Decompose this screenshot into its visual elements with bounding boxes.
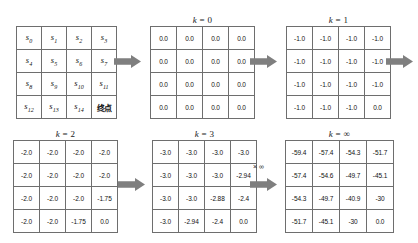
table-row: -3.0 -3.0 -3.0 -2.94 — [153, 164, 257, 187]
value-cell: -2.0 — [14, 210, 40, 233]
table-row: -2.0 -2.0 -2.0 -1.75 — [14, 187, 118, 210]
value-cell: -1.0 — [287, 50, 313, 73]
state-cell: s6 — [67, 50, 92, 73]
table-row: 0.0 0.0 0.0 0.0 — [151, 27, 255, 50]
table-row: -51.7 -45.1 -30 0.0 — [286, 210, 394, 233]
panel-k2: k = 2 -2.0 -2.0 -2.0 -2.0 -2.0 -2.0 -2.0… — [13, 128, 118, 233]
value-cell: -1.0 — [365, 73, 391, 96]
value-cell: 0.0 — [177, 27, 203, 50]
state-cell: s2 — [67, 27, 92, 50]
k3-value-table: -3.0 -3.0 -3.0 -3.0 -3.0 -3.0 -3.0 -2.94… — [152, 140, 257, 233]
table-row: s12 s13 s14 终点 — [17, 96, 117, 119]
value-cell: -51.7 — [367, 141, 394, 164]
value-cell: -57.4 — [286, 164, 313, 187]
value-cell: -57.4 — [313, 141, 340, 164]
table-row: s4 s5 s6 s7 — [17, 50, 117, 73]
value-cell: 0.0 — [151, 96, 177, 119]
state-cell: s14 — [67, 96, 92, 119]
arrow-k1-to-next — [386, 55, 414, 68]
value-cell: -1.0 — [313, 96, 339, 119]
value-cell: 0.0 — [203, 73, 229, 96]
value-cell: -54.6 — [313, 164, 340, 187]
value-cell: -54.3 — [340, 141, 367, 164]
value-cell: -3.0 — [153, 187, 179, 210]
panel-k2-caption: k = 2 — [13, 128, 118, 140]
k-value: = 1 — [333, 15, 348, 25]
state-grid-table: s0 s1 s2 s3 s4 s5 s6 s7 s8 s9 s10 s11 — [16, 26, 117, 119]
value-cell: 0.0 — [231, 210, 257, 233]
value-cell: 0.0 — [367, 210, 394, 233]
value-cell: 0.0 — [203, 50, 229, 73]
state-cell: s3 — [92, 27, 117, 50]
panel-k1: k = 1 -1.0 -1.0 -1.0 -1.0 -1.0 -1.0 -1.0… — [286, 14, 391, 119]
arrow-k0-to-k1 — [250, 55, 278, 68]
state-cell: s9 — [42, 73, 67, 96]
value-cell: -3.0 — [205, 164, 231, 187]
value-cell: -51.7 — [286, 210, 313, 233]
state-cell: s7 — [92, 50, 117, 73]
value-cell: 0.0 — [151, 27, 177, 50]
table-row: -59.4 -57.4 -54.3 -51.7 — [286, 141, 394, 164]
table-row: -2.0 -2.0 -2.0 -2.0 — [14, 164, 118, 187]
value-cell: -2.88 — [205, 187, 231, 210]
value-cell: 0.0 — [177, 50, 203, 73]
state-cell: s1 — [42, 27, 67, 50]
table-row: 0.0 0.0 0.0 0.0 — [151, 96, 255, 119]
table-row: -1.0 -1.0 -1.0 0.0 — [287, 96, 391, 119]
table-row: -1.0 -1.0 -1.0 -1.0 — [287, 27, 391, 50]
value-cell: -1.0 — [287, 96, 313, 119]
value-cell: -2.0 — [14, 141, 40, 164]
gridworld-value-iteration-figure: s0 s1 s2 s3 s4 s5 s6 s7 s8 s9 s10 s11 — [0, 0, 418, 243]
value-cell: -2.0 — [66, 187, 92, 210]
value-cell: -1.0 — [287, 27, 313, 50]
value-cell: -2.0 — [14, 187, 40, 210]
right-arrow-icon — [114, 55, 142, 68]
panel-k1-caption: k = 1 — [286, 14, 391, 26]
arrow-k2-to-k3 — [118, 178, 146, 191]
table-row: s8 s9 s10 s11 — [17, 73, 117, 96]
table-row: -3.0 -3.0 -2.88 -2.4 — [153, 187, 257, 210]
table-row: -57.4 -54.6 -49.7 -45.1 — [286, 164, 394, 187]
table-row: -1.0 -1.0 -1.0 -1.0 — [287, 73, 391, 96]
value-cell: -3.0 — [153, 164, 179, 187]
value-cell: 0.0 — [229, 73, 255, 96]
value-cell: -45.1 — [367, 164, 394, 187]
k1-value-table: -1.0 -1.0 -1.0 -1.0 -1.0 -1.0 -1.0 -1.0 … — [286, 26, 391, 119]
panel-k0-caption: k = 0 — [150, 14, 255, 26]
value-cell: -59.4 — [286, 141, 313, 164]
k-value: = 2 — [60, 129, 75, 139]
value-cell: -2.0 — [92, 164, 118, 187]
state-cell: s4 — [17, 50, 42, 73]
table-row: 0.0 0.0 0.0 0.0 — [151, 73, 255, 96]
value-cell: -1.0 — [339, 73, 365, 96]
value-cell: -3.0 — [179, 141, 205, 164]
panel-k3: k = 3 -3.0 -3.0 -3.0 -3.0 -3.0 -3.0 -3.0… — [152, 128, 257, 233]
right-arrow-icon — [386, 55, 414, 68]
value-cell: -2.0 — [40, 141, 66, 164]
value-cell: 0.0 — [229, 96, 255, 119]
value-cell: 0.0 — [151, 50, 177, 73]
state-cell: s10 — [67, 73, 92, 96]
value-cell: -3.0 — [153, 141, 179, 164]
value-cell: -3.0 — [231, 141, 257, 164]
k-value: = 3 — [199, 129, 214, 139]
state-cell: s12 — [17, 96, 42, 119]
state-cell: s0 — [17, 27, 42, 50]
value-cell: 0.0 — [203, 27, 229, 50]
value-cell: 0.0 — [92, 210, 118, 233]
state-cell: s8 — [17, 73, 42, 96]
arrow-infinity-label: × ∞ — [253, 163, 264, 170]
value-cell: -1.0 — [365, 27, 391, 50]
value-cell: -45.1 — [313, 210, 340, 233]
k-value: = ∞ — [333, 129, 350, 139]
value-cell: 0.0 — [229, 27, 255, 50]
value-cell: -1.0 — [287, 73, 313, 96]
value-cell: -2.0 — [14, 164, 40, 187]
table-row: -3.0 -3.0 -3.0 -3.0 — [153, 141, 257, 164]
value-cell: -2.0 — [66, 141, 92, 164]
panel-state-grid: s0 s1 s2 s3 s4 s5 s6 s7 s8 s9 s10 s11 — [16, 14, 117, 119]
value-cell: -3.0 — [205, 141, 231, 164]
value-cell: -2.0 — [40, 187, 66, 210]
value-cell: -2.94 — [179, 210, 205, 233]
state-cell: s13 — [42, 96, 67, 119]
